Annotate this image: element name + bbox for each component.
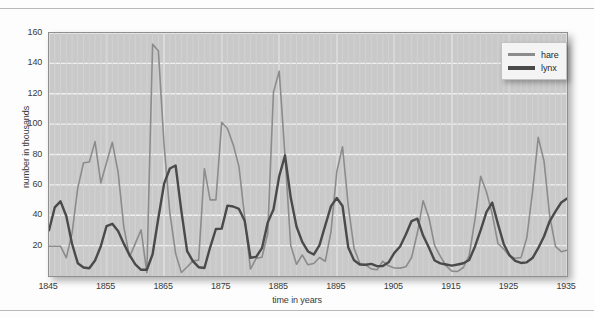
y-tick-20: 20: [10, 240, 42, 250]
figure-top-rule: [0, 8, 594, 9]
y-tick-160: 160: [10, 27, 42, 37]
y-axis-title: number in thousands: [21, 77, 31, 217]
legend-swatch-hare: [508, 53, 535, 56]
legend-item-hare[interactable]: hare: [508, 48, 559, 61]
series-canvas: [49, 33, 567, 276]
x-tick-1915: 1915: [431, 281, 471, 291]
y-tick-140: 140: [10, 57, 42, 67]
x-tick-1865: 1865: [143, 281, 183, 291]
chart-legend: hare lynx: [501, 42, 567, 80]
figure-bottom-rule: [0, 310, 594, 311]
x-tick-1855: 1855: [86, 281, 126, 291]
x-axis-title: time in years: [0, 295, 594, 305]
legend-label-lynx: lynx: [541, 63, 557, 73]
x-tick-1895: 1895: [316, 281, 356, 291]
x-tick-1845: 1845: [28, 281, 68, 291]
plot-area: [48, 32, 568, 277]
legend-swatch-lynx: [508, 66, 535, 70]
x-tick-1935: 1935: [546, 281, 586, 291]
x-tick-1905: 1905: [373, 281, 413, 291]
x-tick-1875: 1875: [201, 281, 241, 291]
x-tick-1885: 1885: [258, 281, 298, 291]
legend-label-hare: hare: [541, 50, 559, 60]
legend-item-lynx[interactable]: lynx: [508, 61, 559, 74]
x-tick-1925: 1925: [488, 281, 528, 291]
chart-figure: 20406080100120140160 1845185518651875188…: [0, 0, 594, 318]
